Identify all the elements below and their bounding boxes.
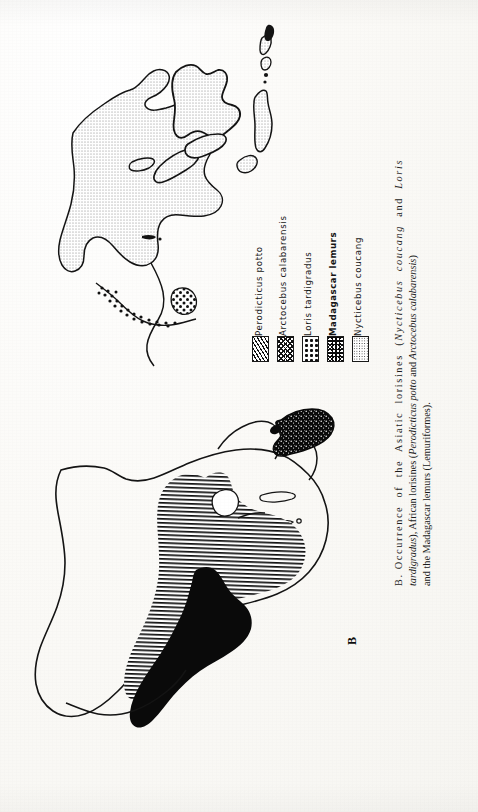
region-philippines-main — [254, 90, 272, 152]
map-legend: Perodicticus potto Arctocebus calabarens… — [250, 176, 395, 366]
region-borneo — [172, 65, 240, 138]
caption-line-3: and the Madagascar lemurs (Lemuriformes)… — [421, 402, 432, 586]
legend-label-loris-tardigradus: Loris tardigradus — [303, 252, 313, 336]
region-madagascar — [273, 409, 334, 456]
caption-line-2: tardigradus), African lorisines (Perodic… — [407, 255, 418, 586]
legend-label-perodicticus-potto: Perodicticus potto — [254, 246, 264, 336]
legend-label-madagascar-lemurs: Madagascar lemurs — [328, 232, 338, 336]
legend-label-nycticebus-coucang: Nycticebus coucang — [353, 237, 363, 336]
lake-outline — [212, 490, 238, 517]
swatch-coarse-dots — [302, 336, 319, 362]
region-malay-peninsula — [147, 263, 164, 366]
island-dot-2 — [263, 80, 266, 83]
swatch-dense-speckle — [327, 336, 344, 362]
map-landmasses — [35, 25, 334, 728]
region-arabia-outline — [218, 421, 281, 459]
region-philippines-south — [237, 156, 257, 173]
red-sea-sliver — [260, 492, 295, 502]
figure-caption: B. Occurrence of the Asiatic lorisines (… — [393, 188, 455, 608]
swatch-diagonal-hatch — [252, 336, 269, 362]
figure-page: Perodicticus potto Arctocebus calabarens… — [0, 0, 478, 812]
island-dot-1 — [264, 73, 268, 77]
island-small-b — [158, 237, 161, 240]
caption-line-1: B. Occurrence of the Asiatic lorisines (… — [393, 159, 404, 586]
region-sri-lanka — [171, 288, 196, 314]
swatch-cross-hatch — [277, 336, 294, 362]
region-philippines-mid — [261, 57, 271, 70]
panel-label-b: B — [345, 637, 360, 645]
swatch-light-stipple — [352, 336, 369, 362]
island-africa-a — [297, 519, 301, 523]
island-top-curl — [264, 25, 274, 41]
legend-label-arctocebus-calabarensis: Arctocebus calabarensis — [278, 215, 288, 336]
